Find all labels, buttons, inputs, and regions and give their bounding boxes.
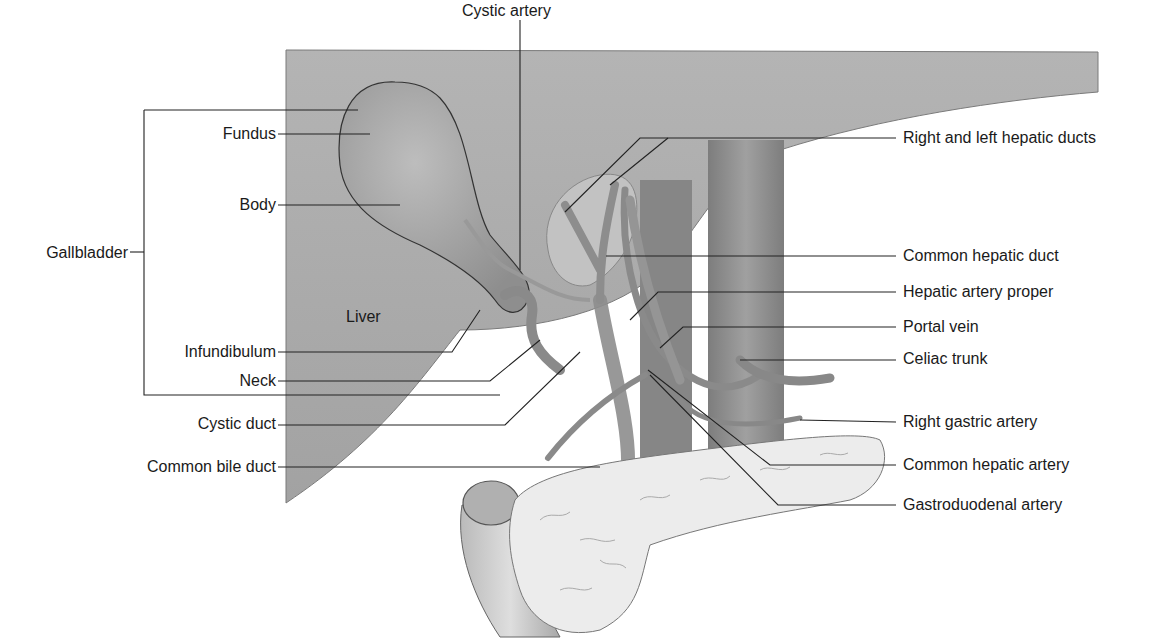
label-body: Body: [240, 196, 276, 214]
label-gallbladder: Gallbladder: [46, 244, 128, 262]
label-hepatic-artery-proper: Hepatic artery proper: [903, 283, 1053, 301]
label-right-gastric-artery: Right gastric artery: [903, 413, 1037, 431]
label-celiac-trunk: Celiac trunk: [903, 350, 987, 368]
label-portal-vein: Portal vein: [903, 318, 979, 336]
label-gastroduodenal-artery: Gastroduodenal artery: [903, 496, 1062, 514]
label-common-bile-duct: Common bile duct: [147, 458, 276, 476]
label-common-hepatic-artery: Common hepatic artery: [903, 456, 1069, 474]
anatomy-illustration: [0, 0, 1168, 644]
label-infundibulum: Infundibulum: [184, 343, 276, 361]
label-cystic-artery: Cystic artery: [462, 2, 551, 20]
label-fundus: Fundus: [223, 125, 276, 143]
label-neck: Neck: [240, 372, 276, 390]
label-cystic-duct: Cystic duct: [198, 415, 276, 433]
label-liver: Liver: [346, 308, 381, 326]
label-hepatic-ducts: Right and left hepatic ducts: [903, 129, 1096, 147]
label-common-hepatic-duct: Common hepatic duct: [903, 247, 1059, 265]
